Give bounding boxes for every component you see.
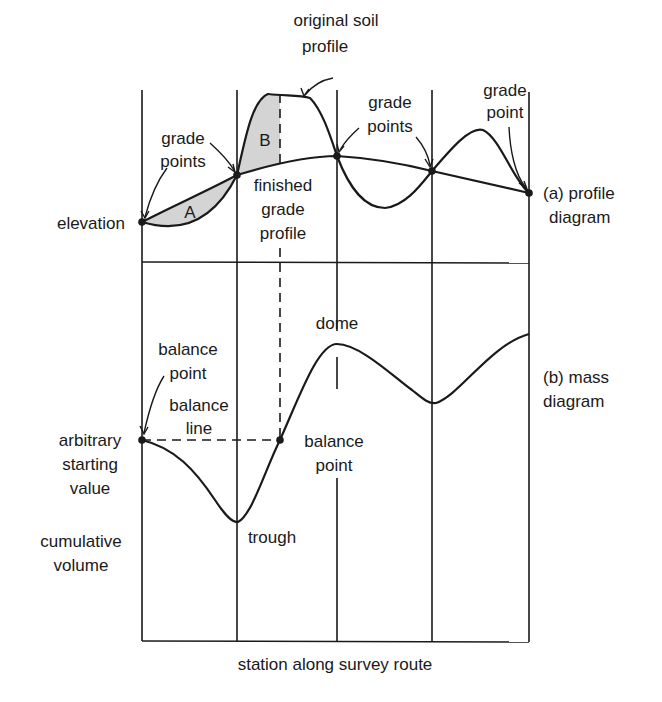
label-finished-2: grade [261, 200, 304, 219]
label-grade-point-right-2: point [487, 103, 524, 122]
label-balance-point-right-2: point [316, 456, 353, 475]
caption-profile-1: (a) profile [543, 184, 615, 203]
label-grade-points-mid-2: points [367, 117, 412, 136]
label-grade-points-left-1: grade [161, 129, 204, 148]
label-grade-points-mid-1: grade [368, 93, 411, 112]
label-balance-point-right-1: balance [304, 432, 364, 451]
label-balance-line-2: line [186, 419, 212, 438]
caption-mass-1: (b) mass [543, 368, 609, 387]
label-arbitrary-2: starting [62, 455, 118, 474]
label-area-a: A [184, 203, 196, 222]
label-original-soil-2: profile [302, 37, 348, 56]
label-arbitrary-1: arbitrary [59, 431, 122, 450]
label-finished-1: finished [254, 176, 313, 195]
label-arbitrary-3: value [70, 479, 111, 498]
label-grade-points-left-2: points [160, 152, 205, 171]
label-dome: dome [316, 314, 359, 333]
label-trough: trough [248, 528, 296, 547]
label-cumulative: cumulative [40, 532, 121, 551]
caption-mass-2: diagram [543, 392, 604, 411]
caption-profile-2: diagram [549, 208, 610, 227]
label-balance-point-top-2: point [170, 364, 207, 383]
label-finished-3: profile [260, 224, 306, 243]
earthwork-mass-diagram: original soil profile grade point grade … [0, 0, 662, 702]
x-axis-line [142, 641, 529, 642]
label-area-b: B [259, 131, 270, 150]
label-balance-line-1: balance [169, 396, 229, 415]
label-original-soil-1: original soil [293, 11, 378, 30]
label-elevation: elevation [57, 214, 125, 233]
label-balance-point-top-1: balance [158, 340, 218, 359]
x-axis-label: station along survey route [238, 655, 433, 674]
label-volume: volume [54, 556, 109, 575]
panel-separator [142, 262, 529, 263]
label-grade-point-right-1: grade [483, 81, 526, 100]
